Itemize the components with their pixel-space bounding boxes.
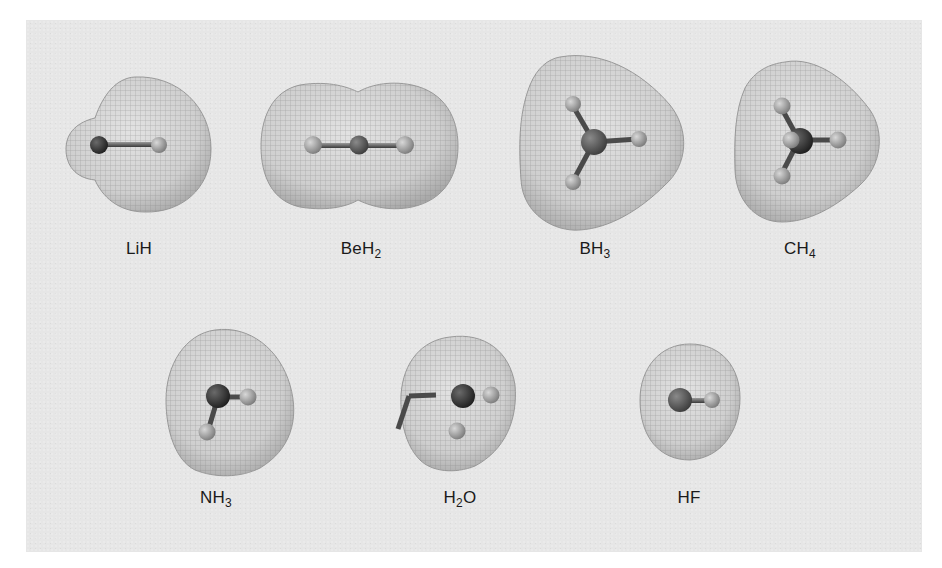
label-h2o: H2O bbox=[444, 488, 477, 508]
label-lih: LiH bbox=[126, 239, 152, 259]
label-nh3: NH3 bbox=[200, 488, 232, 508]
fluorine-atom bbox=[668, 388, 692, 412]
label-bh3: BH3 bbox=[580, 239, 611, 259]
hydrogen-atom bbox=[704, 392, 720, 408]
hf-electron-density-surface bbox=[0, 0, 942, 568]
label-beh2: BeH2 bbox=[341, 239, 382, 259]
label-hf: HF bbox=[677, 488, 700, 508]
label-ch4: CH4 bbox=[784, 239, 816, 259]
